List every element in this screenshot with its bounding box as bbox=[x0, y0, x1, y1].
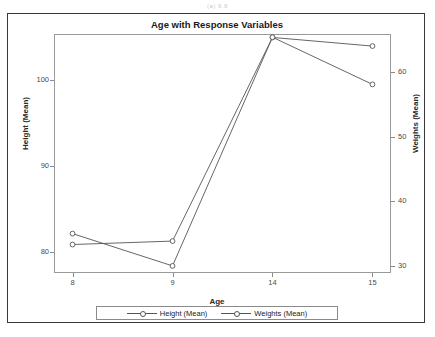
y-axis-right-tick-mark bbox=[391, 201, 395, 202]
chart-title: Age with Response Variables bbox=[8, 19, 426, 30]
y-axis-right-tick-mark bbox=[391, 72, 395, 73]
series-layer bbox=[70, 35, 375, 268]
legend-item-label: Weights (Mean) bbox=[254, 309, 307, 318]
legend-item[interactable]: Height (Mean) bbox=[127, 309, 208, 318]
x-axis-tick-label: 14 bbox=[260, 278, 284, 287]
y-axis-right-tick-mark bbox=[391, 137, 395, 138]
y-axis-left-tick-mark bbox=[50, 252, 54, 253]
series-line bbox=[73, 37, 373, 244]
x-axis-tick-mark bbox=[73, 273, 74, 277]
x-axis-tick-label: 9 bbox=[161, 278, 185, 287]
chart-container: Age with Response Variables 809010030405… bbox=[7, 13, 425, 323]
x-axis-tick-mark bbox=[173, 273, 174, 277]
x-axis-tick-label: 15 bbox=[360, 278, 384, 287]
y-axis-right-tick-label: 30 bbox=[398, 261, 422, 270]
legend-item[interactable]: Weights (Mean) bbox=[221, 309, 307, 318]
y-axis-left-label: Height (Mean) bbox=[21, 69, 30, 179]
x-axis-tick-label: 8 bbox=[61, 278, 85, 287]
data-point-marker[interactable] bbox=[170, 239, 175, 244]
y-axis-left-tick-label: 80 bbox=[16, 247, 49, 256]
data-point-marker[interactable] bbox=[370, 44, 375, 49]
series-line bbox=[73, 37, 373, 266]
y-axis-left-tick-mark bbox=[50, 80, 54, 81]
chart-legend: Height (Mean) Weights (Mean) bbox=[96, 306, 338, 320]
x-axis-tick-mark bbox=[272, 273, 273, 277]
legend-marker-icon bbox=[127, 313, 157, 314]
y-axis-right-tick-label: 40 bbox=[398, 196, 422, 205]
data-point-marker[interactable] bbox=[270, 35, 275, 40]
x-axis-tick-mark bbox=[372, 273, 373, 277]
data-point-marker[interactable] bbox=[170, 263, 175, 268]
y-axis-left-tick-mark bbox=[50, 166, 54, 167]
legend-marker-icon bbox=[221, 313, 251, 314]
data-point-marker[interactable] bbox=[370, 82, 375, 87]
data-point-marker[interactable] bbox=[70, 231, 75, 236]
plot-svg bbox=[54, 34, 391, 273]
x-axis-label: Age bbox=[8, 297, 426, 306]
y-axis-right-label: Weights (Mean) bbox=[411, 69, 420, 179]
figure-caption: (a) 9.9 bbox=[0, 0, 435, 12]
legend-item-label: Height (Mean) bbox=[160, 309, 208, 318]
data-point-marker[interactable] bbox=[70, 242, 75, 247]
y-axis-right-tick-mark bbox=[391, 266, 395, 267]
